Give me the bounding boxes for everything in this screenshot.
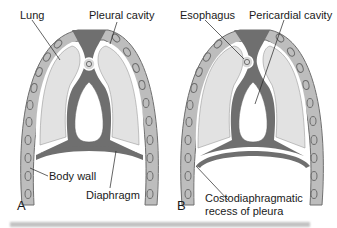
label-pericardial-cavity: Pericardial cavity	[249, 9, 332, 21]
panel-b-drawing	[181, 20, 324, 205]
label-costodiaphragmatic-line1: Costodiaphragmatic	[205, 192, 303, 204]
diaphragm-b	[196, 151, 310, 168]
panel-letter-a: A	[17, 199, 26, 213]
label-esophagus: Esophagus	[180, 9, 235, 21]
embryo-thoracic-cavities-figure: Lung Pleural cavity Body wall Diaphragm …	[0, 0, 337, 228]
figure-caption-blurred	[10, 218, 330, 228]
label-lung: Lung	[20, 9, 44, 21]
panel-letter-b: B	[177, 199, 186, 213]
label-body-wall: Body wall	[49, 170, 96, 182]
label-diaphragm: Diaphragm	[86, 189, 140, 201]
label-costodiaphragmatic-line2: recess of pleura	[205, 205, 283, 217]
label-pleural-cavity: Pleural cavity	[89, 9, 154, 21]
